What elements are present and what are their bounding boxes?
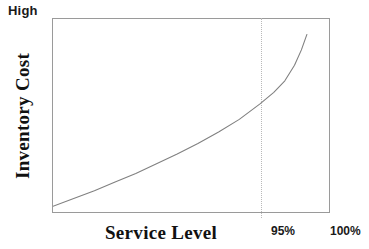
plot-area xyxy=(52,18,330,213)
inventory-cost-curve xyxy=(53,34,307,206)
y-axis-title: Inventory Cost xyxy=(12,52,34,178)
x-axis-tick-label-95: 95% xyxy=(271,224,295,238)
x-axis-tick-label-100: 100% xyxy=(330,224,361,238)
reference-line-95-percent xyxy=(261,18,262,218)
inventory-cost-service-level-chart: High Inventory Cost Service Level 95% 10… xyxy=(0,0,369,249)
y-axis-high-annotation: High xyxy=(8,3,38,18)
curve-svg xyxy=(53,19,329,212)
x-axis-title: Service Level xyxy=(105,222,217,244)
y-axis-title-container: Inventory Cost xyxy=(0,18,46,213)
